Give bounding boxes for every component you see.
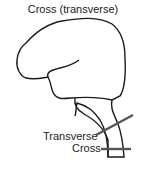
cerebrum-fold [48,60,79,77]
transverse-label: Transverse [43,130,98,142]
cross-label: Cross [72,142,101,154]
cerebrum-lower-edge [17,60,112,100]
transverse-plane-line [96,115,133,135]
